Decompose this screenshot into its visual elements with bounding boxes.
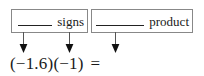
math-expression: (−1.6)(−1)= — [10, 54, 100, 74]
callout-box-product-label: product — [149, 15, 189, 28]
math-first-factor: (−1.6) — [10, 54, 53, 73]
down-arrow-icon-to-second-sign — [64, 32, 75, 54]
blank-answer-line-product — [96, 16, 144, 26]
math-second-factor: (−1) — [53, 54, 83, 73]
callout-box-signs: signs — [11, 9, 88, 33]
callout-box-product: product — [91, 9, 193, 33]
math-equals-sign: = — [91, 54, 101, 73]
down-arrow-icon-to-product — [110, 32, 121, 54]
blank-answer-line-signs — [18, 16, 52, 26]
callout-box-signs-label: signs — [57, 15, 84, 28]
down-arrow-icon-to-first-sign — [18, 32, 29, 54]
math-annotation-diagram: signs product (−1.6)(−1)= — [0, 0, 204, 76]
